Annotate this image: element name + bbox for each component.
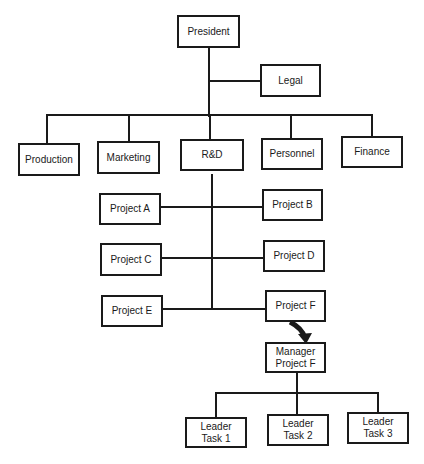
node-label: Personnel xyxy=(269,148,314,160)
node-label: Project B xyxy=(272,199,313,211)
node-marketing: Marketing xyxy=(97,141,160,174)
node-label: Project E xyxy=(112,305,153,317)
arrow-project-f-to-manager xyxy=(0,0,424,464)
node-label-line1: Leader xyxy=(200,421,231,433)
connector-leader1 xyxy=(215,392,217,418)
node-leader-task-2: Leader Task 2 xyxy=(267,414,329,446)
node-label-line2: Project F xyxy=(275,358,315,370)
node-label-line2: Task 1 xyxy=(202,433,231,445)
node-label: Project C xyxy=(110,254,151,266)
node-legal: Legal xyxy=(260,64,321,97)
connector-leader3 xyxy=(377,392,379,413)
node-rnd: R&D xyxy=(180,139,244,171)
node-project-a: Project A xyxy=(99,193,161,225)
node-leader-task-1: Leader Task 1 xyxy=(185,417,247,448)
node-label-line1: Manager xyxy=(276,346,315,358)
node-label: Project F xyxy=(275,300,315,312)
node-president: President xyxy=(177,15,240,48)
node-finance: Finance xyxy=(341,136,403,168)
node-label-line2: Task 2 xyxy=(284,430,313,442)
node-label-line1: Leader xyxy=(362,416,393,428)
node-label: Finance xyxy=(354,146,390,158)
node-label: President xyxy=(187,26,229,38)
node-production: Production xyxy=(18,143,80,176)
node-label: Marketing xyxy=(107,152,151,164)
node-project-e: Project E xyxy=(101,295,163,327)
node-label: Production xyxy=(25,154,73,166)
node-label: Legal xyxy=(278,75,302,87)
connector-manager-trunk xyxy=(296,372,298,393)
node-label: Project A xyxy=(110,203,150,215)
connector-leader2 xyxy=(296,392,298,415)
node-label-line2: Task 3 xyxy=(364,428,393,440)
node-project-b: Project B xyxy=(262,189,323,221)
node-manager-project-f: Manager Project F xyxy=(265,342,326,373)
node-leader-task-3: Leader Task 3 xyxy=(347,412,409,444)
node-label: R&D xyxy=(201,149,222,161)
node-label-line1: Leader xyxy=(282,418,313,430)
node-project-f: Project F xyxy=(265,290,326,322)
node-project-c: Project C xyxy=(100,243,162,276)
node-project-d: Project D xyxy=(263,240,325,272)
node-label: Project D xyxy=(273,250,314,262)
node-personnel: Personnel xyxy=(261,138,323,170)
